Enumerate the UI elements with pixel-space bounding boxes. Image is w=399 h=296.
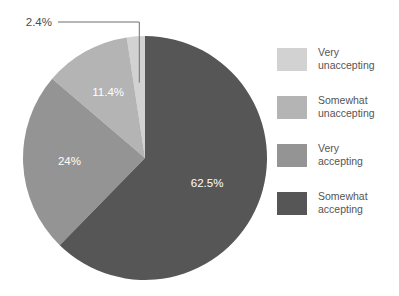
slice-label-very-unaccepting: 2.4% [26,16,52,28]
pie-chart-figure: 11.4% 24% 62.5% 2.4% Very unaccepting So… [0,0,399,296]
legend-swatch-icon [277,48,307,71]
legend-item-label: Somewhat unaccepting [318,94,375,120]
legend-item-very-accepting[interactable]: Very accepting [277,142,397,182]
legend-item-somewhat-unaccepting[interactable]: Somewhat unaccepting [277,94,397,134]
legend-item-very-unaccepting[interactable]: Very unaccepting [277,46,397,86]
legend-swatch-icon [277,96,307,119]
chart-legend: Very unaccepting Somewhat unaccepting Ve… [277,46,397,238]
legend-item-label: Somewhat accepting [318,190,368,216]
slice-label-somewhat-accepting: 62.5% [191,177,224,189]
legend-swatch-icon [277,144,307,167]
legend-item-label: Very unaccepting [318,46,375,72]
legend-item-label: Very accepting [318,142,363,168]
slice-label-somewhat-unaccepting: 11.4% [92,86,124,98]
legend-swatch-icon [277,192,307,215]
legend-item-somewhat-accepting[interactable]: Somewhat accepting [277,190,397,230]
slice-label-very-accepting: 24% [58,155,81,167]
